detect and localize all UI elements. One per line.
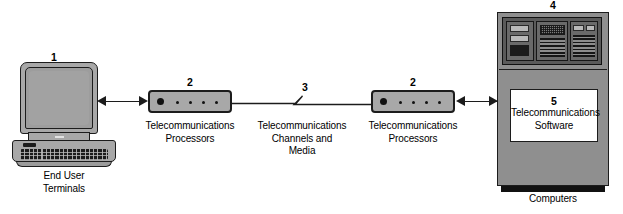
monitor-bezel <box>20 62 98 134</box>
mainframe-panel-right <box>570 21 598 61</box>
mainframe-control-panel <box>502 17 602 65</box>
telecom-processor-icon <box>371 90 455 113</box>
processor-indicator-dot <box>438 101 441 104</box>
node-number-computers: 4 <box>531 0 575 11</box>
mainframe-panel-left <box>506 21 534 61</box>
mainframe-panel-middle <box>536 21 568 61</box>
keyboard-indicator <box>23 143 36 147</box>
node-number-software: 5 <box>511 95 597 107</box>
caption-telecom-processors-right: Telecommunications Processors <box>363 120 463 145</box>
processor-indicator-dot <box>215 101 218 104</box>
processor-indicator-large <box>380 98 387 105</box>
processor-indicator-dot <box>412 101 415 104</box>
panel-vent <box>540 38 565 57</box>
processor-indicator-dot <box>189 101 192 104</box>
channel-line-icon <box>232 92 372 112</box>
telecommunications-network-diagram: 1 End User Terminals 2 Telecommunication… <box>0 0 623 214</box>
caption-telecom-processors-left: Telecommunications Processors <box>140 120 240 145</box>
mainframe-panel-divider <box>499 69 607 70</box>
keyboard-keys <box>20 149 108 160</box>
panel-light <box>586 25 595 31</box>
arrowhead-left-icon <box>97 96 106 106</box>
channel-break-line <box>232 96 372 105</box>
keyboard-base <box>16 161 112 167</box>
processor-indicator-large <box>157 98 164 105</box>
node-number-processor-right: 2 <box>391 77 435 88</box>
node-number-processor-left: 2 <box>168 77 212 88</box>
caption-computers: Computers <box>503 193 603 206</box>
processor-indicator-dot <box>202 101 205 104</box>
software-box-icon: 5 Telecommunications Software <box>510 89 598 142</box>
processor-indicator-dot <box>176 101 179 104</box>
caption-channels-and-media: Telecommunications Channels and Media <box>234 120 370 158</box>
panel-light <box>573 25 584 31</box>
processor-indicator-dot <box>399 101 402 104</box>
mainframe-computer-icon: 5 Telecommunications Software <box>497 12 609 192</box>
panel-slot <box>510 45 529 56</box>
desktop-terminal-icon <box>12 62 116 167</box>
mainframe-base <box>501 186 605 192</box>
panel-light <box>510 35 529 42</box>
arrowhead-left-icon <box>456 96 465 106</box>
caption-telecom-software: Telecommunications Software <box>511 107 597 132</box>
caption-end-user-terminals: End User Terminals <box>14 170 114 195</box>
processor-indicator-dot <box>425 101 428 104</box>
mainframe-case: 5 Telecommunications Software <box>497 12 609 186</box>
monitor-screen <box>29 71 89 125</box>
panel-light <box>510 25 529 32</box>
panel-vent <box>573 35 595 57</box>
arrowhead-right-icon <box>139 96 148 106</box>
panel-grid-display <box>540 25 565 35</box>
monitor-inner-bezel <box>25 67 93 129</box>
telecom-processor-icon <box>148 90 232 113</box>
